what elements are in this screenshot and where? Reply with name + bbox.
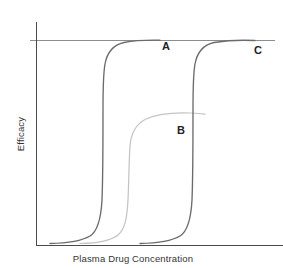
curve-series-a [50,40,160,243]
series-label-a: A [162,40,170,52]
series-label-b: B [177,124,185,136]
curve-series-c [140,40,255,243]
y-axis-title: Efficacy [15,117,26,151]
series-label-c: C [254,44,262,56]
x-axis-title: Plasma Drug Concentration [73,253,193,264]
chart-canvas: A B C Plasma Drug Concentration Efficacy [0,0,283,268]
dose-response-chart: A B C Plasma Drug Concentration Efficacy [0,0,283,268]
